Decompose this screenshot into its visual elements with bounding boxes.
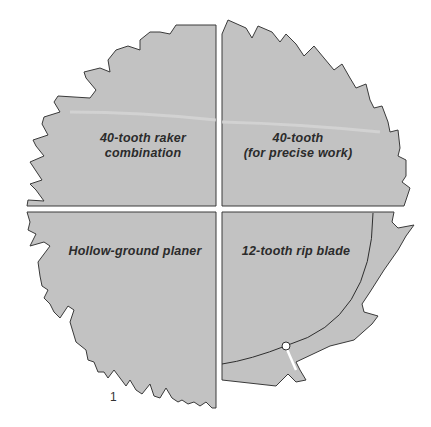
label-top-left: 40-tooth raker combination xyxy=(88,131,198,161)
arbor-hole-icon xyxy=(282,342,290,350)
blade-quadrant-bottom-right xyxy=(222,212,414,386)
label-top-right-line1: 40-tooth xyxy=(238,131,358,146)
label-top-left-line1: 40-tooth raker xyxy=(88,131,198,146)
label-bottom-left: Hollow-ground planer xyxy=(60,244,210,259)
blade-quadrant-top-left xyxy=(27,25,216,206)
label-bottom-right: 12-tooth rip blade xyxy=(236,244,356,259)
label-top-right: 40-tooth (for precise work) xyxy=(238,131,358,161)
label-top-left-line2: combination xyxy=(88,146,198,161)
blade-quadrant-bottom-left xyxy=(27,212,216,408)
figure-number: 1 xyxy=(110,390,117,404)
label-bottom-left-line1: Hollow-ground planer xyxy=(60,244,210,259)
blade-quadrant-top-right xyxy=(222,20,410,206)
saw-blade-figure xyxy=(0,0,431,427)
label-top-right-line2: (for precise work) xyxy=(238,146,358,161)
label-bottom-right-line1: 12-tooth rip blade xyxy=(236,244,356,259)
